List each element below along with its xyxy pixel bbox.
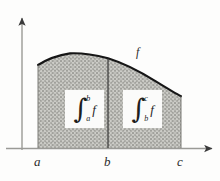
integral-lower-limit: a: [86, 115, 90, 123]
integral-sign-icon: ∫: [131, 98, 145, 119]
integral-label-b-to-c: ∫ c b f: [123, 90, 162, 128]
integral-expression: ∫ c b f: [131, 96, 154, 122]
integral-lower-limit: b: [144, 115, 148, 123]
integral-label-a-to-b: ∫ b a f: [65, 90, 104, 128]
integral-upper-limit: c: [144, 95, 148, 103]
integral-additivity-figure: f ∫ b a f ∫ c b f a b c: [0, 0, 220, 181]
x-tick-label-b: b: [104, 155, 111, 168]
x-tick-label-a: a: [34, 155, 41, 168]
curve-label-f: f: [136, 46, 139, 58]
integrand-label: f: [150, 103, 154, 116]
integral-sign-icon: ∫: [73, 98, 87, 119]
integral-upper-limit: b: [86, 95, 90, 103]
integrand-label: f: [92, 103, 96, 116]
integral-expression: ∫ b a f: [73, 96, 96, 122]
x-tick-label-c: c: [177, 155, 183, 168]
